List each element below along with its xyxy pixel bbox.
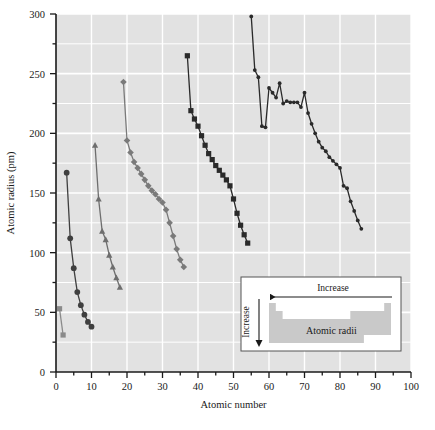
x-tick-label: 10 <box>86 381 97 392</box>
y-tick-label: 250 <box>29 69 45 80</box>
data-point <box>71 265 77 271</box>
data-point <box>231 196 236 201</box>
atomic-radius-chart: 0102030405060708090100 05010015020025030… <box>0 0 435 430</box>
data-point <box>271 91 275 95</box>
data-point <box>242 232 247 237</box>
data-point <box>234 211 239 216</box>
data-point <box>195 124 200 129</box>
data-point <box>199 133 204 138</box>
data-point <box>281 102 285 106</box>
data-point <box>313 131 317 135</box>
data-point <box>324 149 328 153</box>
data-point <box>220 173 225 178</box>
data-point <box>224 177 229 182</box>
data-point <box>299 105 303 109</box>
y-tick-label: 50 <box>35 307 46 318</box>
data-point <box>338 166 342 170</box>
x-tick-label: 0 <box>53 381 58 392</box>
data-point <box>356 219 360 223</box>
data-point <box>345 186 349 190</box>
data-point <box>185 53 190 58</box>
data-point <box>217 168 222 173</box>
inset-increase-label-horizontal: Increase <box>317 283 349 293</box>
data-point <box>82 312 88 318</box>
data-point <box>238 223 243 228</box>
y-tick-label: 150 <box>29 188 45 199</box>
data-point <box>267 86 271 90</box>
inset-periodic-table: IncreaseIncreaseAtomic radii <box>241 277 401 351</box>
data-point <box>278 81 282 85</box>
data-point <box>352 209 356 213</box>
data-point <box>335 162 339 166</box>
data-point <box>288 100 292 104</box>
inset-increase-label-vertical: Increase <box>241 306 251 338</box>
x-tick-label: 40 <box>193 381 204 392</box>
x-tick-label: 90 <box>370 381 381 392</box>
data-point <box>303 91 307 95</box>
x-axis-title: Atomic number <box>200 399 267 410</box>
chart-canvas: 0102030405060708090100 05010015020025030… <box>0 0 435 430</box>
data-point <box>61 332 66 337</box>
y-tick-label: 300 <box>29 9 45 20</box>
data-point <box>331 159 335 163</box>
y-tick-label: 0 <box>40 367 45 378</box>
data-point <box>85 319 91 325</box>
data-point <box>264 125 268 129</box>
data-point <box>274 96 278 100</box>
data-point <box>213 163 218 168</box>
data-point <box>320 146 324 150</box>
data-point <box>78 302 84 308</box>
inset-atomic-radii-label: Atomic radii <box>306 325 357 336</box>
data-point <box>203 143 208 148</box>
data-point <box>317 140 321 144</box>
data-point <box>89 324 95 330</box>
y-tick-label: 200 <box>29 128 45 139</box>
data-point <box>349 199 353 203</box>
data-point <box>256 75 260 79</box>
x-tick-label: 50 <box>228 381 239 392</box>
data-point <box>249 14 253 18</box>
data-point <box>210 157 215 162</box>
x-tick-label: 80 <box>335 381 346 392</box>
x-tick-label: 60 <box>264 381 275 392</box>
data-point <box>74 289 80 295</box>
data-point <box>67 235 73 241</box>
data-point <box>306 111 310 115</box>
x-tick-label: 100 <box>403 381 419 392</box>
x-tick-label: 30 <box>157 381 168 392</box>
data-point <box>57 306 62 311</box>
data-point <box>260 124 264 128</box>
data-point <box>285 99 289 103</box>
data-point <box>64 170 70 176</box>
y-tick-label: 100 <box>29 248 45 259</box>
data-point <box>227 183 232 188</box>
data-point <box>206 151 211 156</box>
y-axis-title: Atomic radius (pm) <box>5 151 17 234</box>
data-point <box>327 155 331 159</box>
data-point <box>192 116 197 121</box>
data-point <box>188 108 193 113</box>
data-point <box>310 122 314 126</box>
data-point <box>245 241 250 246</box>
x-tick-label: 20 <box>122 381 133 392</box>
data-point <box>359 227 363 231</box>
data-point <box>292 100 296 104</box>
data-point <box>342 184 346 188</box>
data-point <box>296 100 300 104</box>
data-point <box>253 68 257 72</box>
x-tick-label: 70 <box>299 381 310 392</box>
